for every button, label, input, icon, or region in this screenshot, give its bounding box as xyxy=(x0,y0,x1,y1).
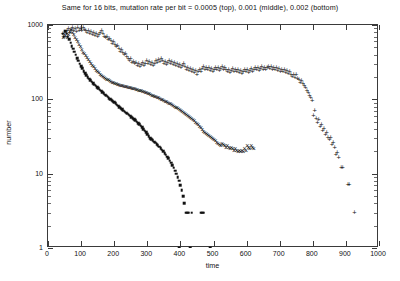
data-point-series-0: + xyxy=(310,97,314,105)
x-tick xyxy=(379,241,380,246)
data-point-series-2 xyxy=(175,172,178,175)
chart-title: Same for 16 bits, mutation rate per bit … xyxy=(0,3,400,12)
x-tick-label: 300 xyxy=(140,250,152,257)
x-tick-label: 800 xyxy=(306,250,318,257)
x-tick-label: 200 xyxy=(107,250,119,257)
y-axis-tick-labels: 1101001000 xyxy=(0,0,43,281)
x-tick xyxy=(379,25,380,30)
data-point-series-0: + xyxy=(336,155,340,163)
data-point-series-0: + xyxy=(340,164,344,172)
data-point-series-2 xyxy=(209,247,212,248)
data-point-series-2 xyxy=(69,41,72,44)
data-point-series-2 xyxy=(178,180,181,183)
data-point-series-2 xyxy=(176,176,179,179)
data-point-series-2 xyxy=(75,53,78,56)
data-point-series-2 xyxy=(189,247,192,248)
y-tick-label: 1 xyxy=(39,244,43,251)
data-point-series-2 xyxy=(178,247,181,248)
data-point-series-0: + xyxy=(352,209,356,217)
y-tick-label: 100 xyxy=(31,95,43,102)
x-tick-label: 700 xyxy=(273,250,285,257)
data-point-series-2 xyxy=(182,195,185,198)
y-tick-label: 1000 xyxy=(27,21,43,28)
data-point-series-1: × xyxy=(252,145,256,152)
y-tick xyxy=(48,248,53,249)
x-tick-label: 0 xyxy=(45,250,49,257)
y-tick xyxy=(372,248,377,249)
chart-container: Same for 16 bits, mutation rate per bit … xyxy=(0,0,400,281)
plot-area: ++++++++++++++++++++++++++++++++++++++++… xyxy=(47,24,378,247)
data-point-series-2 xyxy=(180,189,183,192)
data-point-series-2 xyxy=(183,202,186,205)
x-tick-label: 1000 xyxy=(370,250,386,257)
x-tick-label: 900 xyxy=(339,250,351,257)
y-tick-label: 10 xyxy=(35,169,43,176)
data-points-layer: ++++++++++++++++++++++++++++++++++++++++… xyxy=(48,25,379,248)
data-point-series-2 xyxy=(202,211,205,214)
x-tick-label: 400 xyxy=(174,250,186,257)
x-axis-title: time xyxy=(47,261,378,270)
data-point-series-2 xyxy=(190,211,193,214)
data-point-series-2 xyxy=(63,35,66,38)
data-point-series-2 xyxy=(187,211,190,214)
data-point-series-2 xyxy=(179,184,182,187)
x-tick-label: 100 xyxy=(74,250,86,257)
x-tick-label: 600 xyxy=(240,250,252,257)
x-tick-label: 500 xyxy=(207,250,219,257)
data-point-series-0: + xyxy=(347,181,351,189)
